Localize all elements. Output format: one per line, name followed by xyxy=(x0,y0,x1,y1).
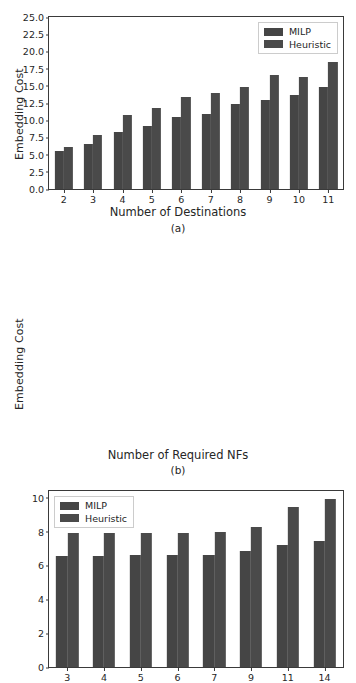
bar-heuristic xyxy=(178,533,189,667)
bar-group xyxy=(55,17,73,189)
bar-heuristic xyxy=(325,499,336,667)
x-tick-label: 3 xyxy=(64,667,70,683)
bar-heuristic xyxy=(67,533,78,667)
y-tick-label: 2 xyxy=(38,628,49,639)
bar-milp xyxy=(202,114,211,189)
y-tick-label: 8 xyxy=(38,526,49,537)
bar-milp xyxy=(130,555,141,667)
y-tick-label: 0 xyxy=(38,662,49,673)
y-tick-label: 2.5 xyxy=(29,166,49,177)
legend-label: Heuristic xyxy=(289,40,331,50)
y-tick-label: 0.0 xyxy=(29,184,49,195)
panel-caption-b: (b) xyxy=(0,464,356,476)
x-tick-label: 5 xyxy=(138,667,144,683)
bar-milp xyxy=(56,556,67,667)
bar-heuristic xyxy=(93,135,102,189)
bar-milp xyxy=(84,144,93,189)
bar-heuristic xyxy=(328,62,337,189)
bar-heuristic xyxy=(123,115,132,189)
x-axis-label-b: Number of Required NFs xyxy=(0,448,356,462)
y-tick-label: 10 xyxy=(32,492,49,503)
bar-milp xyxy=(231,104,240,189)
x-tick-label: 6 xyxy=(175,667,181,683)
x-tick-label: 4 xyxy=(119,189,125,205)
x-axis-label-a: Number of Destinations xyxy=(0,205,356,219)
x-tick-label: 11 xyxy=(322,189,334,205)
x-tick-label: 2 xyxy=(61,189,67,205)
y-axis-label-b: Embedding Cost xyxy=(13,318,26,410)
legend-item-heuristic: Heuristic xyxy=(264,40,331,50)
bar-group xyxy=(203,491,225,667)
panel-caption-a: (a) xyxy=(0,222,356,234)
x-tick-label: 9 xyxy=(266,189,272,205)
x-tick-label: 14 xyxy=(319,667,331,683)
bar-heuristic xyxy=(104,533,115,667)
bar-heuristic xyxy=(240,87,249,190)
subplot-b: Embedding Cost 0246810 3456791114 MILPHe… xyxy=(0,240,356,493)
legend-b: MILPHeuristic xyxy=(54,496,134,528)
legend-a: MILPHeuristic xyxy=(258,22,338,54)
x-tick-label: 7 xyxy=(211,667,217,683)
bar-milp xyxy=(55,151,64,189)
plot-area-b: 0246810 3456791114 MILPHeuristic xyxy=(48,490,344,668)
bar-heuristic xyxy=(64,147,73,189)
bar-milp xyxy=(319,87,328,189)
bar-group xyxy=(166,491,188,667)
subplot-a: Embedding Cost 0.02.55.07.510.012.515.01… xyxy=(0,0,356,240)
bar-group xyxy=(313,491,335,667)
y-tick-label: 22.5 xyxy=(23,29,49,40)
bar-group xyxy=(113,17,131,189)
bar-milp xyxy=(172,117,181,189)
bar-milp xyxy=(166,555,177,667)
bar-heuristic xyxy=(288,507,299,667)
y-tick-label: 17.5 xyxy=(23,63,49,74)
bar-milp xyxy=(290,95,299,189)
legend-swatch-icon xyxy=(264,28,283,36)
x-tick-label: 8 xyxy=(237,189,243,205)
legend-label: Heuristic xyxy=(85,514,127,524)
x-tick-label: 6 xyxy=(178,189,184,205)
legend-item-heuristic: Heuristic xyxy=(60,514,127,524)
legend-item-milp: MILP xyxy=(264,27,331,37)
bar-milp xyxy=(277,545,288,667)
bar-heuristic xyxy=(270,75,279,189)
bar-milp xyxy=(93,556,104,667)
bar-heuristic xyxy=(211,93,220,189)
legend-swatch-icon xyxy=(264,40,283,48)
bar-milp xyxy=(113,132,122,189)
y-tick-label: 25.0 xyxy=(23,12,49,23)
bar-group xyxy=(240,491,262,667)
x-tick-label: 7 xyxy=(208,189,214,205)
bar-group xyxy=(202,17,220,189)
bar-heuristic xyxy=(251,527,262,667)
bar-milp xyxy=(240,551,251,667)
bar-milp xyxy=(143,126,152,189)
legend-label: MILP xyxy=(289,27,311,37)
legend-label: MILP xyxy=(85,501,107,511)
bar-group xyxy=(277,491,299,667)
bar-milp xyxy=(313,541,324,667)
y-tick-label: 7.5 xyxy=(29,132,49,143)
bar-heuristic xyxy=(299,77,308,189)
x-tick-label: 4 xyxy=(101,667,107,683)
legend-item-milp: MILP xyxy=(60,501,127,511)
bar-group xyxy=(84,17,102,189)
y-tick-label: 10.0 xyxy=(23,115,49,126)
x-tick-label: 3 xyxy=(90,189,96,205)
y-tick-label: 5.0 xyxy=(29,149,49,160)
bar-heuristic xyxy=(214,532,225,667)
bar-heuristic xyxy=(152,108,161,189)
legend-swatch-icon xyxy=(60,502,79,510)
legend-swatch-icon xyxy=(60,514,79,522)
y-tick-label: 20.0 xyxy=(23,46,49,57)
y-tick-label: 15.0 xyxy=(23,80,49,91)
x-tick-label: 11 xyxy=(282,667,294,683)
bar-group xyxy=(143,17,161,189)
x-tick-label: 5 xyxy=(149,189,155,205)
y-tick-label: 6 xyxy=(38,560,49,571)
bar-heuristic xyxy=(181,97,190,189)
y-tick-label: 12.5 xyxy=(23,98,49,109)
bar-heuristic xyxy=(141,533,152,667)
bar-group xyxy=(231,17,249,189)
